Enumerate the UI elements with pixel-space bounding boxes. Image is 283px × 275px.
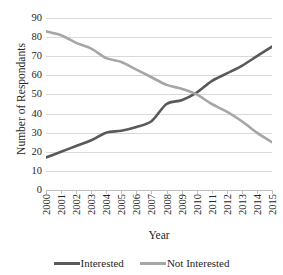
legend-item-label: Interested xyxy=(81,257,124,269)
x-axis-tick-label: 2005 xyxy=(116,194,127,215)
x-axis-tick-label: 2015 xyxy=(267,194,278,215)
x-axis-tick-label: 2008 xyxy=(161,194,172,215)
x-axis-tick-label: 2013 xyxy=(236,194,247,215)
x-axis-tick-label: 2004 xyxy=(101,194,112,215)
x-axis-tick-label: 2009 xyxy=(176,194,187,215)
x-axis-tick-label: 2007 xyxy=(146,194,157,215)
y-axis-tick-label: 20 xyxy=(22,147,42,157)
y-axis-tick-label: 90 xyxy=(22,13,42,23)
x-axis-tick-label: 2014 xyxy=(251,194,262,215)
plot-area xyxy=(46,18,272,190)
y-axis-tick-label: 80 xyxy=(22,32,42,42)
x-axis-tick-label: 2002 xyxy=(71,194,82,215)
x-axis-tick-label: 2006 xyxy=(131,194,142,215)
legend-item[interactable]: Interested xyxy=(54,257,124,269)
y-axis-tick-label: 60 xyxy=(22,70,42,80)
x-axis-title: Year xyxy=(46,228,272,242)
series-lines xyxy=(46,18,272,190)
x-axis-tick-labels: 2000200120022003200420052006200720082009… xyxy=(46,194,272,228)
x-axis-tick-label: 2003 xyxy=(86,194,97,215)
y-axis-tick-label: 10 xyxy=(22,166,42,176)
x-axis-tick-label: 2011 xyxy=(206,194,217,215)
chart-legend: InterestedNot Interested xyxy=(0,254,283,272)
series-line-not-interested xyxy=(46,31,272,142)
series-line-interested xyxy=(46,47,272,158)
legend-item-label: Not Interested xyxy=(167,257,230,269)
y-axis-tick-labels: 9080706050403020100 xyxy=(22,0,42,275)
y-axis-tick-label: 40 xyxy=(22,109,42,119)
y-axis-tick-label: 50 xyxy=(22,89,42,99)
chart-title xyxy=(0,0,283,1)
y-axis-tick-label: 70 xyxy=(22,51,42,61)
x-axis-tick-label: 2010 xyxy=(191,194,202,215)
y-axis-tick-label: 30 xyxy=(22,128,42,138)
x-axis-tick-label: 2000 xyxy=(41,194,52,215)
x-axis-tick-label: 2012 xyxy=(221,194,232,215)
legend-item[interactable]: Not Interested xyxy=(140,257,230,269)
x-axis-tick-label: 2001 xyxy=(56,194,67,215)
line-swatch-icon xyxy=(54,262,80,265)
line-swatch-icon xyxy=(140,262,166,265)
line-chart-figure: Number of Respondants 908070605040302010… xyxy=(0,0,283,275)
